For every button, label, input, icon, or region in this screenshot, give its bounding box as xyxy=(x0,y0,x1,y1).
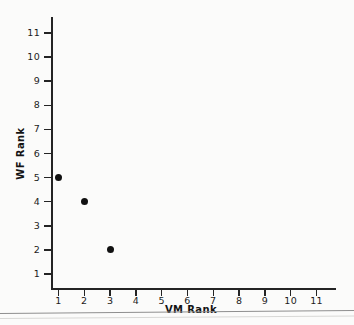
y-tick-label-10: 10 xyxy=(14,52,40,62)
y-tick-2 xyxy=(44,249,52,251)
y-tick-label-3: 3 xyxy=(14,221,40,231)
y-tick-7 xyxy=(44,129,52,131)
data-point xyxy=(55,174,62,181)
y-tick-label-9: 9 xyxy=(14,76,40,86)
y-tick-3 xyxy=(44,225,52,227)
x-axis-line xyxy=(51,288,336,290)
y-tick-label-1: 1 xyxy=(14,269,40,279)
y-tick-6 xyxy=(44,153,52,155)
y-tick-5 xyxy=(44,177,52,179)
y-tick-11 xyxy=(44,32,52,34)
y-tick-10 xyxy=(44,56,52,58)
data-point xyxy=(107,246,114,253)
y-axis-title: WF Rank xyxy=(15,104,26,204)
y-tick-1 xyxy=(44,273,52,275)
scatter-plot: 1234567891011 1234567891011 WF Rank VM R… xyxy=(0,0,354,325)
y-tick-label-2: 2 xyxy=(14,245,40,255)
figure-page: 1234567891011 1234567891011 WF Rank VM R… xyxy=(0,0,354,325)
y-tick-8 xyxy=(44,105,52,107)
data-point xyxy=(81,198,88,205)
y-tick-9 xyxy=(44,80,52,82)
y-tick-label-11: 11 xyxy=(14,28,40,38)
y-tick-4 xyxy=(44,201,52,203)
